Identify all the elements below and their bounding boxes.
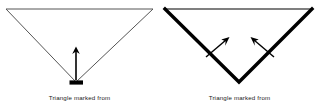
caption-left: Triangle marked from — [0, 94, 159, 102]
right-triangle-diagram — [160, 0, 319, 92]
figure-root: Triangle marked from Triangle marked fro… — [0, 0, 319, 104]
triangle-fill — [165, 9, 312, 82]
panel-left: Triangle marked from — [0, 0, 159, 104]
triangle-outline-thin — [6, 9, 153, 82]
caption-right: Triangle marked from — [160, 94, 319, 102]
left-triangle-diagram — [0, 0, 159, 92]
panel-right: Triangle marked from — [160, 0, 319, 104]
